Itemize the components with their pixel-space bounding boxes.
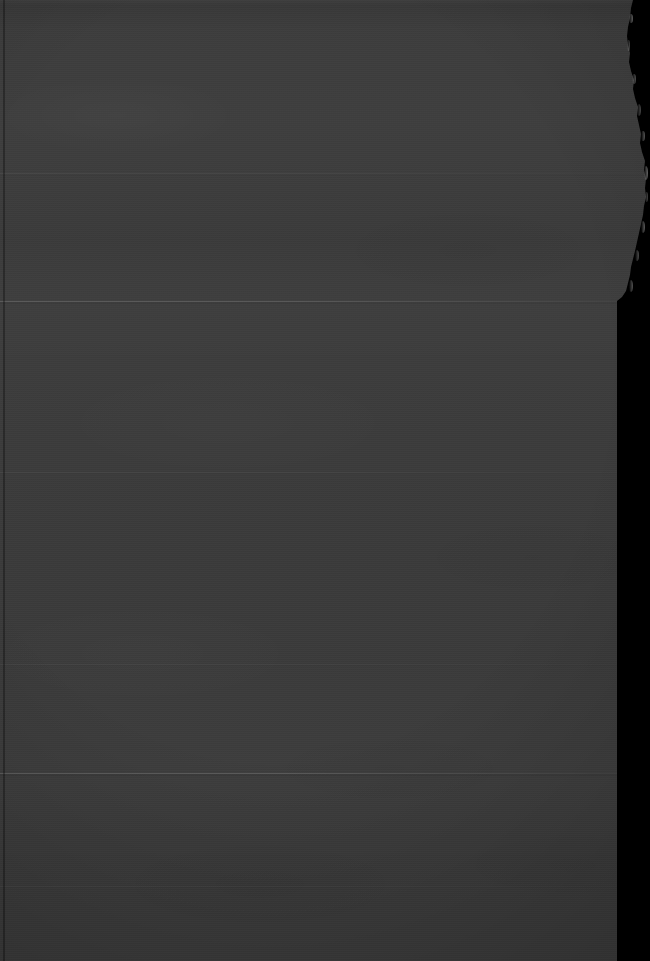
tonal-banding-layer [0, 0, 650, 961]
left-edge-shadow-line [3, 0, 5, 961]
crease-primary-lower-shadow [0, 774, 650, 777]
crease-primary-lower [0, 773, 650, 774]
crease-bottom-faint-shadow [0, 887, 650, 890]
horizontal-grain-layer [0, 0, 650, 961]
crease-upper-faint-shadow [0, 174, 650, 177]
crease-lower-faint-shadow [0, 665, 650, 668]
crease-primary-upper [0, 301, 650, 302]
tear-glint-5 [641, 131, 645, 141]
crease-primary-upper-shadow [0, 302, 650, 305]
crease-bottom-faint [0, 886, 650, 887]
surface-mottle-layer [0, 0, 650, 961]
vertical-grain-layer [0, 0, 650, 961]
tear-glint-10 [629, 280, 633, 292]
tear-glint-9 [635, 250, 639, 261]
crease-upper-faint [0, 173, 650, 174]
torn-gray-paper-sheet [0, 0, 650, 961]
photo-canvas [0, 0, 650, 961]
crease-lower-faint [0, 664, 650, 665]
tear-glint-8 [641, 221, 645, 233]
crease-mid-faint [0, 472, 650, 473]
crease-mid-faint-shadow [0, 473, 650, 476]
